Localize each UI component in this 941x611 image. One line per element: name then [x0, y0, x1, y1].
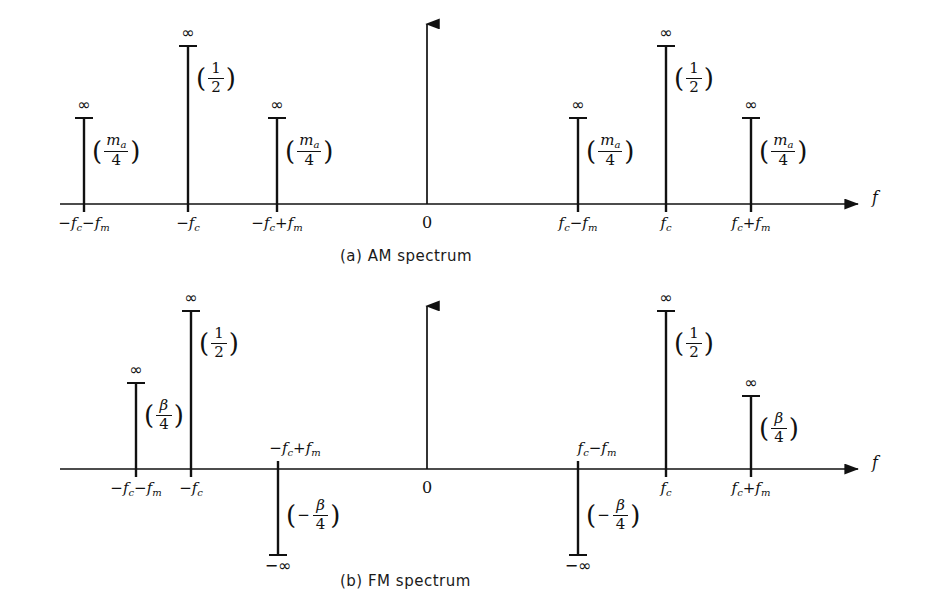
am-amplitude-label-carrier-pos: ( 1 2 ): [674, 61, 714, 96]
am-infinity-cap-label: ∞: [181, 25, 194, 41]
amplitude-numerator: ma: [771, 133, 795, 151]
paren-open: (: [196, 65, 206, 91]
amplitude-denominator: 4: [598, 151, 622, 169]
paren-close: ): [797, 138, 807, 164]
minus-sign: −: [596, 508, 611, 523]
am-infinity-cap-label: ∞: [270, 97, 283, 113]
fm-infinity-cap-label: ∞: [659, 290, 672, 306]
am-tick-label-fc: fc: [660, 216, 671, 233]
paren-open: (: [759, 138, 769, 164]
amplitude-numerator: β: [158, 398, 171, 415]
paren-open: (: [759, 415, 769, 441]
amplitude-numerator: 1: [687, 326, 701, 343]
paren-close: ): [130, 138, 140, 164]
fm-infinity-cap-label: ∞: [129, 362, 142, 378]
paren-open: (: [586, 138, 596, 164]
am-axes: [60, 24, 858, 204]
paren-close: ): [630, 502, 640, 528]
fm-tick-label-neg-fc-minus-fm: −fc−fm: [110, 481, 161, 498]
amplitude-denominator: 2: [211, 343, 227, 361]
paren-close: ): [704, 330, 714, 356]
paren-close: ): [330, 502, 340, 528]
amplitude-numerator: β: [614, 498, 627, 515]
am-amplitude-label-usb2: ( ma 4 ): [759, 133, 808, 169]
fm-axis-variable-label: f: [872, 455, 878, 471]
amplitude-denominator: 2: [686, 343, 702, 361]
minus-sign: −: [296, 508, 311, 523]
paren-open: (: [144, 402, 154, 428]
am-tick-label-neg-fc: −fc: [176, 216, 200, 233]
fm-tick-label-fc-minus-fm: fc−fm: [578, 441, 617, 458]
amplitude-numerator: 1: [209, 61, 223, 78]
amplitude-denominator: 4: [156, 415, 172, 433]
fm-tick-label-fc: fc: [660, 481, 671, 498]
fm-infinity-cap-label: ∞: [744, 375, 757, 391]
am-infinity-cap-label: ∞: [744, 97, 757, 113]
paren-close: ): [323, 138, 333, 164]
amplitude-denominator: 4: [313, 515, 329, 533]
amplitude-numerator: ma: [104, 133, 128, 151]
fm-negative-infinity-cap-label: −∞: [265, 558, 292, 574]
amplitude-numerator: 1: [687, 61, 701, 78]
fm-amplitude-label-usb2: ( β 4 ): [759, 411, 799, 446]
fm-amplitude-label-carrier-pos: ( 1 2 ): [674, 326, 714, 361]
amplitude-numerator: β: [314, 498, 327, 515]
am-impulses: [75, 46, 760, 212]
amplitude-denominator: 4: [771, 151, 795, 169]
am-amplitude-label-carrier-neg: ( 1 2 ): [196, 61, 236, 96]
amplitude-numerator: β: [773, 411, 786, 428]
am-amplitude-label-lsb1: ( ma 4 ): [92, 133, 141, 169]
amplitude-denominator: 4: [613, 515, 629, 533]
amplitude-numerator: 1: [212, 326, 226, 343]
fm-amplitude-label-carrier-neg: ( 1 2 ): [199, 326, 239, 361]
fm-negative-infinity-cap-label: −∞: [565, 558, 592, 574]
fm-tick-label-neg-fc-plus-fm: −fc+fm: [269, 441, 320, 458]
am-tick-label-neg-fc-minus-fm: −fc−fm: [58, 216, 109, 233]
fm-infinity-cap-label: ∞: [184, 290, 197, 306]
fm-amplitude-label-lsb2-negative: ( − β 4 ): [586, 498, 640, 533]
amplitude-denominator: 4: [104, 151, 128, 169]
fm-caption: (b) FM spectrum: [340, 572, 471, 590]
paren-close: ): [704, 65, 714, 91]
fm-axes: [60, 306, 858, 469]
fm-tick-label-fc-plus-fm: fc+fm: [732, 481, 771, 498]
paren-open: (: [586, 502, 596, 528]
figure-am-fm-spectra: ∞ ∞ ∞ ∞ ∞ ∞ ( ma 4 ) ( 1 2 ) ( ma: [0, 0, 941, 611]
amplitude-denominator: 2: [686, 78, 702, 96]
paren-open: (: [92, 138, 102, 164]
amplitude-numerator: ma: [297, 133, 321, 151]
am-tick-label-fc-minus-fm: fc−fm: [559, 216, 598, 233]
paren-close: ): [229, 330, 239, 356]
amplitude-numerator: ma: [598, 133, 622, 151]
fm-amplitude-label-usb1-negative: ( − β 4 ): [286, 498, 340, 533]
amplitude-denominator: 4: [297, 151, 321, 169]
paren-close: ): [174, 402, 184, 428]
fm-amplitude-label-lsb1: ( β 4 ): [144, 398, 184, 433]
am-infinity-cap-label: ∞: [571, 97, 584, 113]
am-caption: (a) AM spectrum: [340, 247, 472, 265]
paren-open: (: [285, 138, 295, 164]
amplitude-denominator: 2: [208, 78, 224, 96]
amplitude-denominator: 4: [771, 428, 787, 446]
am-amplitude-label-lsb2: ( ma 4 ): [586, 133, 635, 169]
spectra-svg: [0, 0, 941, 611]
am-tick-label-fc-plus-fm: fc+fm: [732, 216, 771, 233]
paren-close: ): [789, 415, 799, 441]
am-infinity-cap-label: ∞: [77, 97, 90, 113]
am-axis-variable-label: f: [872, 190, 878, 206]
am-infinity-cap-label: ∞: [659, 25, 672, 41]
paren-open: (: [674, 330, 684, 356]
paren-close: ): [226, 65, 236, 91]
am-amplitude-label-usb1: ( ma 4 ): [285, 133, 334, 169]
am-origin-label: 0: [422, 215, 432, 231]
am-tick-label-neg-fc-plus-fm: −fc+fm: [251, 216, 302, 233]
paren-open: (: [199, 330, 209, 356]
paren-open: (: [286, 502, 296, 528]
fm-tick-label-neg-fc: −fc: [179, 481, 203, 498]
fm-origin-label: 0: [422, 480, 432, 496]
paren-close: ): [624, 138, 634, 164]
paren-open: (: [674, 65, 684, 91]
